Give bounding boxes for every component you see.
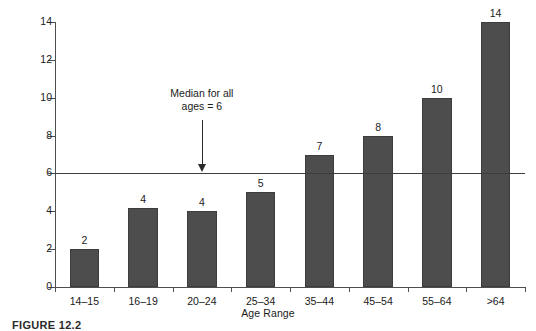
x-tick-mark (173, 287, 174, 292)
annotation-line-2: ages = 6 (182, 100, 223, 113)
x-tick-mark (290, 287, 291, 292)
bar-value-label: 7 (316, 140, 322, 152)
bar (481, 22, 510, 287)
y-tick-label: 0 (46, 280, 52, 292)
figure-caption: FIGURE 12.2 (12, 319, 81, 331)
x-tick-label: 20–24 (187, 295, 216, 307)
plot-area: 02468101214 14–1516–1920–2425–3435–4445–… (55, 20, 525, 287)
bar (187, 211, 216, 287)
annotation-line-1: Median for all (170, 87, 233, 100)
bar-value-label: 14 (490, 7, 502, 19)
x-tick-label: 16–19 (129, 295, 158, 307)
x-tick-label: 14–15 (70, 295, 99, 307)
bar-value-label: 5 (258, 177, 264, 189)
y-tick-label: 6 (46, 166, 52, 178)
y-tick-label: 2 (46, 242, 52, 254)
annotation-arrow-shaft (202, 120, 203, 165)
x-tick-mark (408, 287, 409, 292)
bar-value-label: 8 (375, 121, 381, 133)
bar-value-label: 2 (81, 234, 87, 246)
x-tick-label: 25–34 (246, 295, 275, 307)
bar (128, 208, 157, 288)
x-tick-label: 55–64 (422, 295, 451, 307)
x-tick-label: 35–44 (305, 295, 334, 307)
y-tick-label: 8 (46, 129, 52, 141)
y-axis-line (55, 22, 56, 287)
x-tick-mark (466, 287, 467, 292)
median-reference-line (55, 173, 525, 174)
bar-value-label: 4 (140, 193, 146, 205)
x-tick-label: 45–54 (364, 295, 393, 307)
bar (70, 249, 99, 287)
bar (363, 136, 392, 287)
x-tick-mark (55, 287, 56, 292)
annotation-arrowhead-icon (198, 164, 206, 172)
x-tick-label: >64 (487, 295, 505, 307)
x-axis-title: Age Range (0, 307, 536, 319)
bar-value-label: 10 (431, 83, 443, 95)
bar (246, 192, 275, 287)
bar (422, 98, 451, 287)
y-tick-label: 14 (40, 15, 52, 27)
x-tick-mark (114, 287, 115, 292)
figure-container: Median Days Away From Work 02468101214 1… (0, 0, 536, 331)
x-tick-mark (349, 287, 350, 292)
y-tick-label: 12 (40, 53, 52, 65)
x-tick-mark (525, 287, 526, 292)
y-tick-label: 4 (46, 204, 52, 216)
x-tick-mark (231, 287, 232, 292)
bar-value-label: 4 (199, 196, 205, 208)
y-tick-label: 10 (40, 91, 52, 103)
